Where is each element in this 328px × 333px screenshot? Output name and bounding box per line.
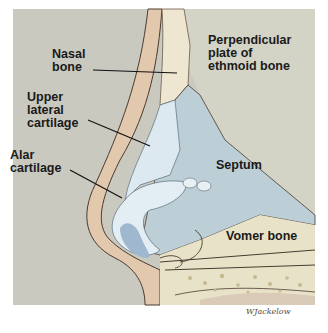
sesamoid-2 — [197, 181, 211, 191]
label-vomer-bone: Vomer bone — [226, 230, 297, 243]
label-septum: Septum — [216, 159, 262, 172]
label-alar-cartilage: Alar cartilage — [10, 149, 61, 175]
artist-signature: WJackelow — [246, 307, 290, 316]
label-nasal-bone: Nasal bone — [52, 48, 85, 74]
label-perpendicular-plate: Perpendicular plate of ethmoid bone — [208, 34, 291, 73]
label-upper-lateral-cartilage: Upper lateral cartilage — [27, 91, 78, 130]
sesamoid-1 — [183, 178, 197, 188]
